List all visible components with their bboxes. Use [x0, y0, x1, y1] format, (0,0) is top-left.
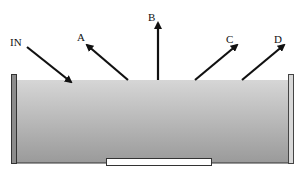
label-d: D: [274, 33, 282, 45]
incoming-ray-arrow: [27, 47, 71, 82]
label-c: C: [226, 33, 233, 45]
left-wall: [12, 75, 17, 164]
right-wall: [289, 75, 294, 164]
label-b: B: [148, 11, 155, 23]
label-in: IN: [10, 36, 22, 48]
reflection-refraction-diagram: IN A B C D: [0, 0, 303, 177]
ray-d-arrow: [242, 45, 284, 80]
bottom-slot: [107, 159, 212, 166]
ray-c-arrow: [195, 45, 237, 80]
label-a: A: [77, 31, 85, 43]
liquid-medium: [16, 80, 289, 163]
ray-a-arrow: [87, 45, 128, 80]
